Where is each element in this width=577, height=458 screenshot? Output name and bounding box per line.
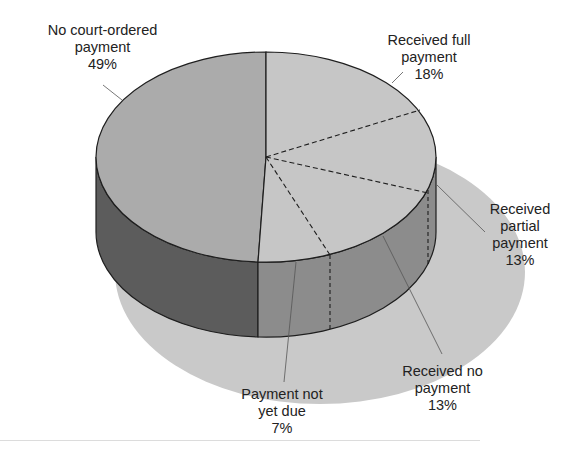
bottom-rule bbox=[0, 440, 480, 441]
label-line: payment bbox=[385, 380, 500, 397]
leader-no-court-ordered bbox=[103, 85, 122, 100]
label-value: 13% bbox=[385, 397, 500, 414]
label-value: 7% bbox=[222, 420, 342, 437]
label-value: 13% bbox=[470, 252, 570, 269]
label-line: payment bbox=[364, 49, 494, 66]
label-line: Received bbox=[470, 201, 570, 218]
label-line: No court-ordered bbox=[20, 22, 185, 39]
label-value: 49% bbox=[20, 56, 185, 73]
label-line: partial bbox=[470, 218, 570, 235]
label-partial-payment: Received partial payment 13% bbox=[470, 201, 570, 269]
label-line: Payment not bbox=[222, 386, 342, 403]
label-line: payment bbox=[470, 235, 570, 252]
label-full-payment: Received full payment 18% bbox=[364, 32, 494, 83]
label-line: yet due bbox=[222, 403, 342, 420]
label-no-payment: Received no payment 13% bbox=[385, 363, 500, 414]
label-no-court-ordered: No court-ordered payment 49% bbox=[20, 22, 185, 73]
label-value: 18% bbox=[364, 66, 494, 83]
label-line: Received full bbox=[364, 32, 494, 49]
label-not-yet-due: Payment not yet due 7% bbox=[222, 386, 342, 437]
label-line: Received no bbox=[385, 363, 500, 380]
label-line: payment bbox=[20, 39, 185, 56]
